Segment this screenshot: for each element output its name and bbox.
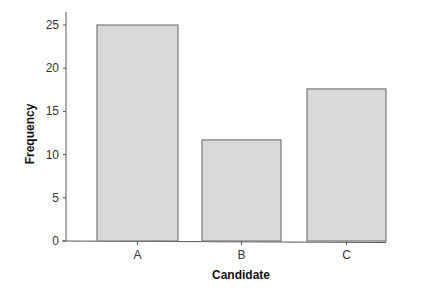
x-axis-title: Candidate [212, 268, 270, 282]
bar-b [202, 140, 281, 241]
y-tick-label: 10 [46, 148, 60, 162]
bar-a [97, 25, 178, 241]
bars [97, 25, 386, 241]
x-axis: ABC [62, 241, 386, 262]
x-tick-label: C [342, 248, 351, 262]
y-tick-label: 0 [52, 234, 59, 248]
y-axis: 0510152025 [46, 12, 66, 248]
y-tick-label: 15 [46, 104, 60, 118]
y-tick-label: 20 [46, 61, 60, 75]
bar-c [307, 89, 386, 241]
x-tick-label: B [237, 248, 245, 262]
y-axis-title: Frequency [23, 103, 37, 164]
y-tick-label: 25 [46, 18, 60, 32]
x-tick-label: A [133, 248, 141, 262]
bar-chart: 0510152025 ABC Frequency Candidate [0, 0, 438, 294]
y-tick-label: 5 [52, 191, 59, 205]
